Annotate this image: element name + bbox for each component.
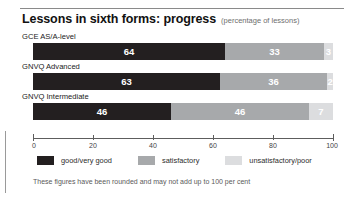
x-axis-tick-80 (273, 135, 274, 140)
x-axis-tick-60 (213, 135, 214, 140)
x-axis-tick-0 (33, 134, 34, 141)
bar-value-good-1: 63 (121, 76, 132, 87)
stacked-bar-0: 64 33 3 (33, 43, 333, 60)
bar-segment-satisfactory-2: 46 (171, 103, 309, 120)
bar-segment-unsatisfactory-1: 2 (327, 73, 333, 90)
chart-footnote: These figures have been rounded and may … (33, 178, 250, 185)
x-axis-tick-40 (153, 135, 154, 140)
legend-item-unsatisfactory: unsatisfactory/poor (225, 156, 311, 165)
stacked-bar-2: 46 46 7 (33, 103, 333, 120)
legend-swatch-satisfactory-icon (138, 156, 155, 165)
category-label-1: GNVQ Advanced (22, 62, 80, 71)
bar-value-unsatisfactory-1: 2 (327, 76, 332, 87)
bar-segment-unsatisfactory-2: 7 (309, 103, 333, 120)
bar-value-unsatisfactory-2: 7 (318, 106, 323, 117)
stacked-bar-1: 63 36 2 (33, 73, 333, 90)
bar-value-satisfactory-1: 36 (268, 76, 279, 87)
x-axis-label-80: 80 (269, 142, 277, 149)
legend-swatch-unsatisfactory-icon (225, 156, 242, 165)
chart-subtitle: (percentage of lessons) (221, 16, 299, 25)
bar-value-good-0: 64 (124, 46, 135, 57)
chart-title: Lessons in sixth forms: progress (22, 12, 216, 26)
bar-value-unsatisfactory-0: 3 (326, 46, 331, 57)
legend-swatch-good-icon (37, 156, 54, 165)
bar-segment-satisfactory-1: 36 (220, 73, 327, 90)
legend-item-satisfactory: satisfactory (138, 156, 199, 165)
legend-item-good: good/very good (37, 156, 112, 165)
x-axis-line (33, 138, 333, 139)
bar-segment-good-0: 64 (33, 43, 225, 60)
x-axis-label-60: 60 (209, 142, 217, 149)
legend-label-unsatisfactory: unsatisfactory/poor (249, 156, 311, 165)
top-divider (20, 8, 344, 9)
x-axis-tick-100 (333, 134, 334, 141)
x-axis-label-20: 20 (89, 142, 97, 149)
x-axis-label-40: 40 (149, 142, 157, 149)
bar-segment-good-2: 46 (33, 103, 171, 120)
bar-segment-satisfactory-0: 33 (225, 43, 324, 60)
bar-segment-good-1: 63 (33, 73, 220, 90)
chart-header: Lessons in sixth forms: progress (percen… (22, 12, 299, 26)
bar-value-satisfactory-2: 46 (235, 106, 246, 117)
left-divider (5, 131, 6, 193)
bar-value-good-2: 46 (97, 106, 108, 117)
legend-label-good: good/very good (61, 156, 112, 165)
x-axis-label-100: 100 (326, 142, 338, 149)
chart-legend: good/very good satisfactory unsatisfacto… (37, 156, 338, 165)
x-axis-tick-20 (93, 135, 94, 140)
legend-label-satisfactory: satisfactory (162, 156, 199, 165)
x-axis-label-0: 0 (32, 142, 36, 149)
category-label-2: GNVQ Intermediate (22, 92, 89, 101)
bar-value-satisfactory-0: 33 (269, 46, 280, 57)
chart-figure: Lessons in sixth forms: progress (percen… (0, 0, 353, 202)
bar-segment-unsatisfactory-0: 3 (324, 43, 333, 60)
category-label-0: GCE AS/A-level (22, 32, 76, 41)
